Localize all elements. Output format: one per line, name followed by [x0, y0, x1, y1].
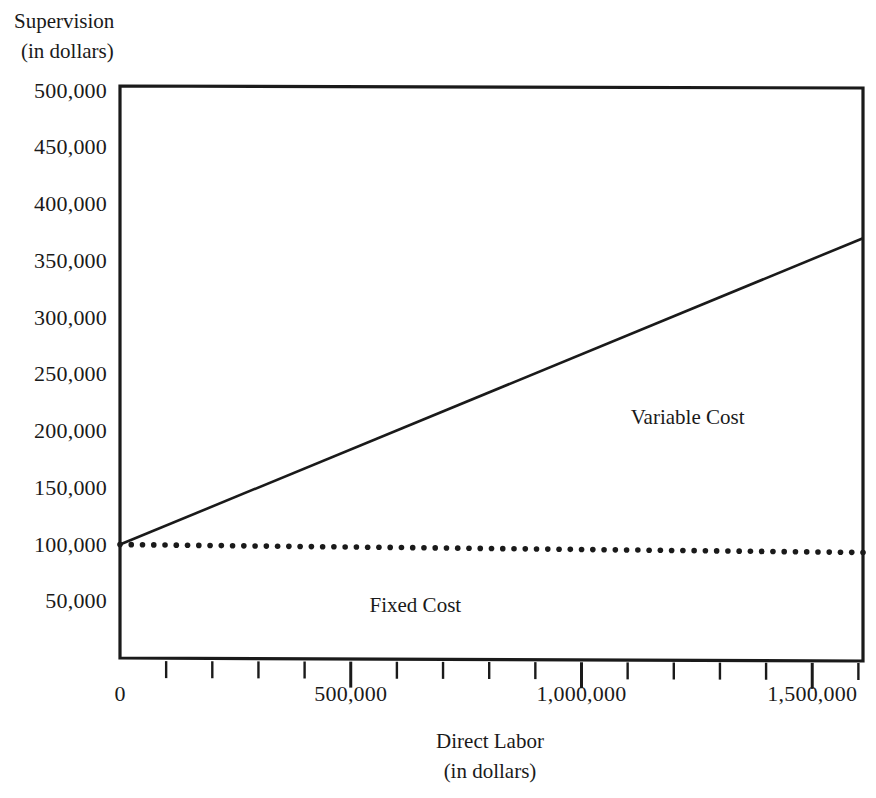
- series-dot: [151, 542, 157, 548]
- y-tick-label: 250,000: [34, 361, 107, 387]
- series-dot: [219, 543, 225, 549]
- series-dot: [342, 544, 348, 550]
- axes-border: [120, 86, 863, 661]
- series-dot: [185, 542, 191, 548]
- series-dot: [793, 549, 799, 555]
- series-dot: [173, 542, 179, 548]
- series-dot: [770, 549, 776, 555]
- series-dot: [252, 543, 258, 549]
- chart-figure: Supervision (in dollars) 500,000450,0004…: [0, 0, 876, 798]
- y-tick-label: 100,000: [34, 532, 107, 558]
- x-tick-label: 1,500,000: [767, 681, 857, 707]
- series-dot: [736, 548, 742, 554]
- series-dot: [410, 545, 416, 551]
- series-dot: [714, 548, 720, 554]
- series-dot: [365, 544, 371, 550]
- series-dot: [849, 550, 855, 556]
- y-tick-label: 450,000: [34, 134, 107, 160]
- series-dot: [826, 549, 832, 555]
- series-dot: [568, 547, 574, 553]
- series-dot: [421, 545, 427, 551]
- series-dot: [286, 544, 292, 550]
- series-dot: [635, 547, 641, 553]
- series-dot: [207, 543, 213, 549]
- series-dot: [117, 542, 123, 548]
- series-dot: [748, 548, 754, 554]
- series-dot: [545, 546, 551, 552]
- series-lines: [117, 238, 866, 555]
- series-dot: [815, 549, 821, 555]
- series-dot: [511, 546, 517, 552]
- series-dot: [613, 547, 619, 553]
- series-dot: [838, 549, 844, 555]
- plot-canvas: [0, 0, 876, 798]
- series-dot: [680, 548, 686, 554]
- y-tick-label: 200,000: [34, 418, 107, 444]
- series-dot: [241, 543, 247, 549]
- annotation-variable-cost: Variable Cost: [631, 405, 745, 430]
- series-dot: [275, 543, 281, 549]
- y-tick-label: 50,000: [45, 588, 107, 614]
- series-dot: [489, 546, 495, 552]
- series-dot: [455, 545, 461, 551]
- series-dot: [264, 543, 270, 549]
- x-tick-label: 500,000: [314, 681, 387, 707]
- x-axis-title: Direct Labor (in dollars): [436, 726, 544, 786]
- series-dot: [466, 545, 472, 551]
- series-dot: [331, 544, 337, 550]
- series-dot: [579, 547, 585, 553]
- series-dot: [162, 542, 168, 548]
- series-dot: [376, 545, 382, 551]
- x-axis-title-line1: Direct Labor: [436, 726, 544, 756]
- series-dot: [477, 546, 483, 552]
- series-dot: [590, 547, 596, 553]
- y-tick-label: 500,000: [34, 78, 107, 104]
- series-dot: [703, 548, 709, 554]
- series-dot: [128, 542, 134, 548]
- series-line-fixed-cost: [117, 542, 866, 556]
- series-dot: [646, 547, 652, 553]
- y-axis-title-line1: Supervision: [14, 6, 114, 36]
- series-dot: [354, 544, 360, 550]
- series-dot: [669, 548, 675, 554]
- series-dot: [387, 545, 393, 551]
- series-dot: [860, 550, 866, 556]
- series-dot: [309, 544, 315, 550]
- series-dot: [624, 547, 630, 553]
- y-tick-label: 400,000: [34, 191, 107, 217]
- y-axis-title: Supervision (in dollars): [14, 6, 114, 66]
- series-dot: [196, 543, 202, 549]
- series-dot: [297, 544, 303, 550]
- x-tick-label: 1,000,000: [537, 681, 627, 707]
- series-line-variable-cost: [120, 238, 863, 544]
- axes-frame: [120, 86, 863, 661]
- x-axis-title-line2: (in dollars): [436, 756, 544, 786]
- series-dot: [601, 547, 607, 553]
- y-tick-label: 350,000: [34, 248, 107, 274]
- y-tick-label: 300,000: [34, 305, 107, 331]
- x-tick-label: 0: [114, 681, 125, 707]
- series-dot: [691, 548, 697, 554]
- series-dot: [759, 549, 765, 555]
- series-dot: [500, 546, 506, 552]
- series-dot: [320, 544, 326, 550]
- series-dot: [432, 545, 438, 551]
- y-tick-label: 150,000: [34, 475, 107, 501]
- series-dot: [658, 548, 664, 554]
- series-dot: [230, 543, 236, 549]
- series-dot: [140, 542, 146, 548]
- series-dot: [399, 545, 405, 551]
- annotation-fixed-cost: Fixed Cost: [370, 592, 462, 617]
- series-dot: [534, 546, 540, 552]
- series-dot: [804, 549, 810, 555]
- series-dot: [781, 549, 787, 555]
- series-dot: [556, 546, 562, 552]
- y-axis-title-line2: (in dollars): [14, 36, 114, 66]
- series-dot: [725, 548, 731, 554]
- series-dot: [444, 545, 450, 551]
- x-tick-marks: [166, 661, 858, 689]
- series-dot: [522, 546, 528, 552]
